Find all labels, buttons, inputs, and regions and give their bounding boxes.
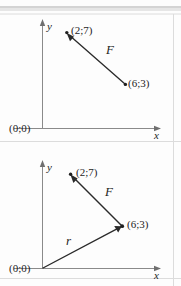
y-axis-label-bottom: y [47,162,52,173]
point-label-2-7-top: (2;7) [71,25,92,36]
position-vector-label-bottom: r [66,234,71,247]
force-vector-line-bottom [74,178,122,226]
point-dot-6-3-top [124,83,127,86]
force-vector-line-top [71,36,126,84]
origin-label-top: (0;0) [9,123,30,134]
x-axis-label-bottom: x [154,270,159,281]
force-vector-label-bottom: F [105,185,113,198]
y-axis-label-top: y [47,21,52,32]
x-axis-label-top: x [154,130,159,141]
scan-band-top-soft [0,8,181,11]
point-label-6-3-top: (6;3) [128,78,149,89]
point-label-2-7-bottom: (2;7) [76,167,97,178]
point-dot-6-3-bottom [120,224,124,228]
figure-container: y x (0;0) (2;7) (6;3) F y x (0;0) (2;7) … [0,0,181,286]
force-vector-label-top: F [106,43,114,56]
scan-band-top [0,6,181,8]
origin-label-bottom: (0;0) [9,263,30,274]
point-dot-2-7-bottom [69,173,72,176]
point-dot-2-7-top [65,31,68,34]
position-vector-line-bottom [43,229,117,268]
y-axis-arrowhead-bottom [40,160,45,167]
figure-canvas [0,0,181,286]
point-label-6-3-bottom: (6;3) [127,219,148,230]
y-axis-arrowhead-top [40,19,45,26]
